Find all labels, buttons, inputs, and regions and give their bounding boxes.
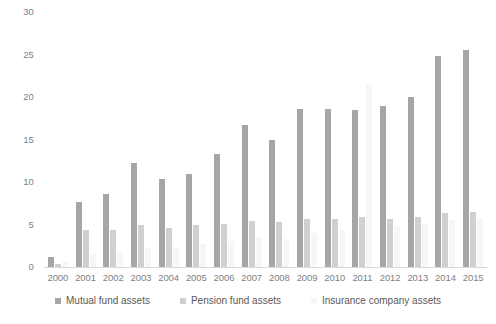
bar-pension-fund-assets[interactable] bbox=[249, 221, 255, 267]
bar-mutual-fund-assets[interactable] bbox=[380, 106, 386, 267]
legend-item-label: Insurance company assets bbox=[322, 295, 441, 307]
bar-group bbox=[44, 12, 72, 267]
bar-pension-fund-assets[interactable] bbox=[442, 213, 448, 267]
x-axis-tick-label: 2005 bbox=[182, 269, 210, 287]
x-axis-line bbox=[44, 267, 487, 268]
bar-pension-fund-assets[interactable] bbox=[110, 230, 116, 267]
bar-pension-fund-assets[interactable] bbox=[193, 225, 199, 267]
bar-groups bbox=[44, 12, 487, 267]
bar-insurance-company-assets[interactable] bbox=[256, 237, 262, 267]
bar-mutual-fund-assets[interactable] bbox=[352, 110, 358, 267]
y-axis-tick-label: 25 bbox=[23, 50, 34, 60]
bar-group bbox=[266, 12, 294, 267]
bar-insurance-company-assets[interactable] bbox=[339, 230, 345, 267]
bar-insurance-company-assets[interactable] bbox=[117, 252, 123, 267]
bar-insurance-company-assets[interactable] bbox=[90, 254, 96, 267]
y-axis-tick-label: 10 bbox=[23, 177, 34, 187]
bar-group bbox=[459, 12, 487, 267]
bar-mutual-fund-assets[interactable] bbox=[131, 163, 137, 267]
bar-insurance-company-assets[interactable] bbox=[449, 220, 455, 267]
bar-pension-fund-assets[interactable] bbox=[359, 217, 365, 267]
bar-group bbox=[127, 12, 155, 267]
plot-area bbox=[44, 12, 487, 267]
chart-legend: Mutual fund assetsPension fund assetsIns… bbox=[0, 295, 496, 307]
bar-insurance-company-assets[interactable] bbox=[422, 224, 428, 267]
bar-pension-fund-assets[interactable] bbox=[166, 228, 172, 267]
bar-group bbox=[432, 12, 460, 267]
bar-group bbox=[321, 12, 349, 267]
bar-pension-fund-assets[interactable] bbox=[304, 219, 310, 267]
bar-insurance-company-assets[interactable] bbox=[200, 244, 206, 267]
y-axis-tick-label: 30 bbox=[23, 7, 34, 17]
x-axis-tick-label: 2015 bbox=[459, 269, 487, 287]
bar-chart: 051015202530 200020012002200320042005200… bbox=[0, 0, 496, 324]
bar-insurance-company-assets[interactable] bbox=[62, 262, 68, 267]
bar-insurance-company-assets[interactable] bbox=[366, 84, 372, 267]
x-axis: 2000200120022003200420052006200720082009… bbox=[44, 269, 487, 287]
bar-group bbox=[210, 12, 238, 267]
bar-mutual-fund-assets[interactable] bbox=[242, 125, 248, 267]
legend-item-label: Mutual fund assets bbox=[66, 295, 150, 307]
bar-group bbox=[238, 12, 266, 267]
bar-mutual-fund-assets[interactable] bbox=[463, 50, 469, 267]
legend-swatch-icon bbox=[180, 298, 186, 304]
legend-item[interactable]: Pension fund assets bbox=[180, 295, 281, 307]
bar-insurance-company-assets[interactable] bbox=[477, 218, 483, 267]
bar-mutual-fund-assets[interactable] bbox=[408, 97, 414, 267]
bar-group bbox=[404, 12, 432, 267]
bar-insurance-company-assets[interactable] bbox=[311, 233, 317, 267]
bar-pension-fund-assets[interactable] bbox=[221, 224, 227, 267]
legend-item[interactable]: Mutual fund assets bbox=[55, 295, 150, 307]
y-axis-tick-label: 5 bbox=[29, 220, 34, 230]
y-axis-tick-label: 0 bbox=[29, 262, 34, 272]
x-axis-tick-label: 2009 bbox=[293, 269, 321, 287]
legend-swatch-icon bbox=[311, 298, 317, 304]
bar-insurance-company-assets[interactable] bbox=[228, 241, 234, 267]
y-axis-tick-label: 15 bbox=[23, 135, 34, 145]
bar-insurance-company-assets[interactable] bbox=[394, 226, 400, 267]
bar-group bbox=[99, 12, 127, 267]
bar-pension-fund-assets[interactable] bbox=[470, 212, 476, 267]
bar-pension-fund-assets[interactable] bbox=[55, 264, 61, 267]
x-axis-tick-label: 2010 bbox=[321, 269, 349, 287]
bar-pension-fund-assets[interactable] bbox=[415, 217, 421, 267]
bar-insurance-company-assets[interactable] bbox=[173, 247, 179, 267]
bar-group bbox=[293, 12, 321, 267]
x-axis-tick-label: 2014 bbox=[432, 269, 460, 287]
bar-group bbox=[349, 12, 377, 267]
bar-pension-fund-assets[interactable] bbox=[387, 219, 393, 267]
x-axis-tick-label: 2006 bbox=[210, 269, 238, 287]
legend-item[interactable]: Insurance company assets bbox=[311, 295, 441, 307]
bar-pension-fund-assets[interactable] bbox=[83, 230, 89, 267]
bar-mutual-fund-assets[interactable] bbox=[269, 140, 275, 268]
bar-mutual-fund-assets[interactable] bbox=[159, 179, 165, 267]
bar-mutual-fund-assets[interactable] bbox=[48, 257, 54, 267]
legend-item-label: Pension fund assets bbox=[191, 295, 281, 307]
bar-insurance-company-assets[interactable] bbox=[145, 248, 151, 267]
x-axis-tick-label: 2000 bbox=[44, 269, 72, 287]
bar-mutual-fund-assets[interactable] bbox=[76, 202, 82, 267]
bar-mutual-fund-assets[interactable] bbox=[214, 154, 220, 267]
bar-pension-fund-assets[interactable] bbox=[276, 222, 282, 267]
bar-pension-fund-assets[interactable] bbox=[332, 219, 338, 267]
bar-pension-fund-assets[interactable] bbox=[138, 225, 144, 267]
x-axis-tick-label: 2013 bbox=[404, 269, 432, 287]
bar-mutual-fund-assets[interactable] bbox=[435, 56, 441, 267]
bar-insurance-company-assets[interactable] bbox=[283, 239, 289, 267]
x-axis-tick-label: 2004 bbox=[155, 269, 183, 287]
bar-group bbox=[72, 12, 100, 267]
legend-swatch-icon bbox=[55, 298, 61, 304]
x-axis-tick-label: 2007 bbox=[238, 269, 266, 287]
bar-group bbox=[155, 12, 183, 267]
bar-mutual-fund-assets[interactable] bbox=[186, 174, 192, 267]
x-axis-tick-label: 2008 bbox=[266, 269, 294, 287]
bar-mutual-fund-assets[interactable] bbox=[325, 109, 331, 267]
x-axis-tick-label: 2002 bbox=[99, 269, 127, 287]
bar-group bbox=[182, 12, 210, 267]
x-axis-tick-label: 2001 bbox=[72, 269, 100, 287]
bar-mutual-fund-assets[interactable] bbox=[297, 109, 303, 267]
bar-mutual-fund-assets[interactable] bbox=[103, 194, 109, 267]
x-axis-tick-label: 2003 bbox=[127, 269, 155, 287]
bar-group bbox=[376, 12, 404, 267]
x-axis-tick-label: 2012 bbox=[376, 269, 404, 287]
